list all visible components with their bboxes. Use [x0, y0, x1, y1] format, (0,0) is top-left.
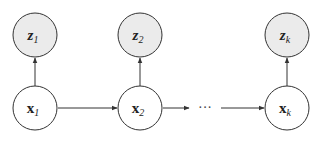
node-z1: z1 — [13, 13, 57, 57]
node-subscript: 1 — [34, 107, 39, 118]
hmm-diagram: ··· z1 z2 zk x1 x2 xk — [0, 0, 322, 141]
node-x2: x2 — [118, 86, 162, 130]
node-xk: xk — [265, 86, 309, 130]
node-subscript: 2 — [139, 107, 144, 118]
node-subscript: 2 — [138, 34, 143, 45]
node-subscript: k — [287, 107, 292, 118]
node-subscript: k — [286, 34, 291, 45]
ellipsis: ··· — [198, 100, 212, 115]
node-subscript: 1 — [33, 34, 38, 45]
node-x1: x1 — [13, 86, 57, 130]
node-z2: z2 — [118, 13, 162, 57]
node-zk: zk — [265, 13, 309, 57]
